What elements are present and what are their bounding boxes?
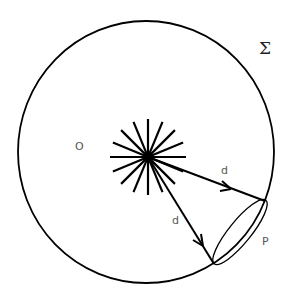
distance-arrow-upper: [148, 157, 265, 201]
sigma-label: Σ: [259, 38, 271, 58]
distance-label-upper: d: [221, 164, 228, 177]
patch-label: P: [262, 235, 269, 248]
arrowhead-icon: [193, 234, 203, 246]
distance-label-lower: d: [172, 214, 179, 227]
flux-diagram: Σ O d d P: [0, 0, 291, 298]
origin-label: O: [75, 140, 84, 153]
distance-arrow-lower: [148, 157, 214, 264]
